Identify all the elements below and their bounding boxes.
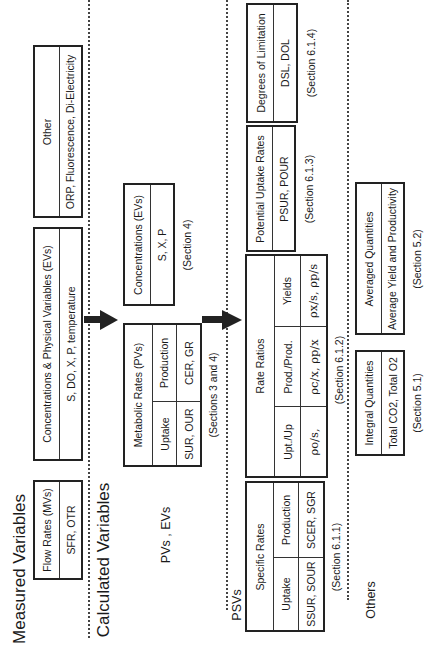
potential-uptake-box: Potential Uptake Rates PSUR, POUR [246,125,296,252]
ratio-production-values: ρc/x, ρp/x [301,327,326,406]
other-title: Other [35,47,59,216]
metabolic-uptake-values: SUR, OUR [177,402,200,465]
specific-uptake-header: Uptake [274,558,298,630]
specific-production-values: SCER, SGR [299,483,323,557]
averaged-quantities-ref: (Section 5.2) [408,182,426,335]
averaged-quantities-title: Averaged Quantities [357,184,381,333]
specific-rates-box: Specific Rates Uptake SSUR, SOUR Product… [245,481,325,632]
separator-others [347,0,349,600]
concentrations-physical-title: Concentrations & Physical Variables (EVs… [35,229,59,459]
concentrations-evs-title: Concentrations (EVs) [125,185,150,304]
others-label: Others [362,575,380,625]
calculated-variables-heading: Calculated Variables [92,470,116,650]
concentrations-evs-box: Concentrations (EVs) S, X, P [123,183,175,306]
specific-production-header: Production [274,483,298,557]
averaged-quantities-values: Average Yield and Productivity [382,184,403,333]
ratio-uptake-values: ρo/s, [301,407,326,476]
degrees-limitation-box: Degrees of Limitation DSL, DOL [246,3,298,123]
concentrations-evs-values: S, X, P [151,185,173,304]
specific-uptake-values: SSUR, SOUR [299,558,323,630]
integral-quantities-ref: (Section 5.1) [408,350,426,456]
pvs-evs-label: PVs , EVs [156,500,176,570]
averaged-quantities-box: Averaged Quantities Average Yield and Pr… [355,182,405,335]
degrees-limitation-ref: (Section 6.1.4) [302,3,320,123]
degrees-limitation-values: DSL, DOL [274,5,296,121]
potential-uptake-ref: (Section 6.1.3) [300,125,318,252]
flow-rates-values: SFR, OTR [60,482,81,578]
ratio-yields-header: Yields [275,256,300,326]
rate-ratios-title: Rate Ratios [247,256,274,476]
metabolic-rates-title: Metabolic Rates (PVs) [125,325,152,465]
flow-rates-box: Flow Rates (MVs) SFR, OTR [33,480,83,580]
concentrations-physical-box: Concentrations & Physical Variables (EVs… [33,227,83,461]
other-measured-box: Other ORP, Fluorescence, Di-Electricity [33,45,83,218]
metabolic-rates-ref: (Sections 3 and 4) [204,323,222,467]
metabolic-uptake-header: Uptake [153,402,176,465]
measured-variables-heading: Measured Variables [8,485,32,653]
ratio-production-header: Prod./Prod. [275,327,300,406]
rate-ratios-box: Rate Ratios Upt./Up ρo/s, Prod./Prod. ρc… [245,254,328,478]
degrees-limitation-title: Degrees of Limitation [248,5,273,121]
other-values: ORP, Fluorescence, Di-Electricity [60,47,81,216]
integral-quantities-title: Integral Quantities [357,352,381,454]
concentrations-evs-ref: (Section 4) [178,183,196,306]
metabolic-rates-box: Metabolic Rates (PVs) Uptake SUR, OUR Pr… [123,323,202,467]
ratio-uptake-header: Upt./Up [275,407,300,476]
specific-rates-ref: (Section 6.1.1) [327,481,345,632]
specific-rates-title: Specific Rates [247,483,273,630]
integral-quantities-values: Total CO2, Total O2 [382,352,403,454]
separator-psvs [226,0,228,610]
metabolic-production-values: CER, GR [177,325,200,401]
potential-uptake-values: PSUR, POUR [273,127,294,250]
ratio-yields-values: ρx/s, ρp/s [301,256,326,326]
psvs-label: PSVs [228,585,246,625]
concentrations-physical-values: S, DO, X, P, temperature [60,229,81,459]
rate-ratios-ref: (Section 6.1.2) [330,330,348,410]
flow-rates-title: Flow Rates (MVs) [35,482,59,578]
metabolic-production-header: Production [153,325,176,401]
potential-uptake-title: Potential Uptake Rates [248,127,272,250]
integral-quantities-box: Integral Quantities Total CO2, Total O2 [355,350,405,456]
